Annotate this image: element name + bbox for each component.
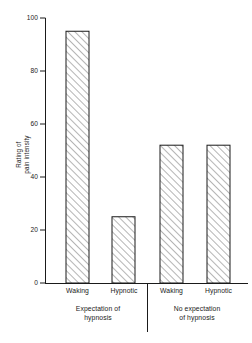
x-category-label-1: Waking <box>58 288 98 295</box>
bar-expectation-hypnotic <box>112 217 135 283</box>
bar-no-expectation-hypnotic <box>207 145 230 283</box>
group-label-no-expectation: No expectation of hypnosis <box>151 304 243 323</box>
group-label-no-expectation-line-2: of hypnosis <box>151 313 243 322</box>
bar-expectation-waking <box>66 31 89 283</box>
x-category-label-4: Hypnotic <box>197 288 241 295</box>
bar-chart: Rating of pain intensity 100 80 60 40 20… <box>0 0 252 343</box>
group-label-no-expectation-line-1: No expectation <box>151 304 243 313</box>
bar-no-expectation-waking <box>160 145 183 283</box>
group-label-expectation: Expectation of hypnosis <box>52 304 144 323</box>
group-label-expectation-line-1: Expectation of <box>52 304 144 313</box>
x-category-label-3: Waking <box>152 288 192 295</box>
x-category-label-2: Hypnotic <box>102 288 146 295</box>
group-label-expectation-line-2: hypnosis <box>52 313 144 322</box>
